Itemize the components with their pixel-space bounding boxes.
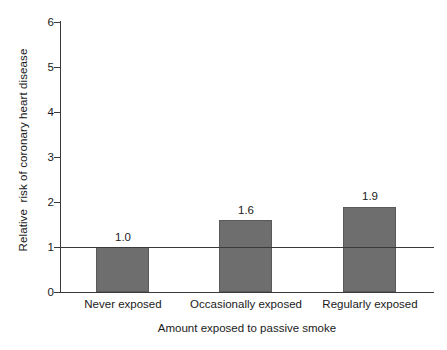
y-tick-label-3: 3 [40,152,54,163]
x-axis-title: Amount exposed to passive smoke [60,322,434,334]
x-category-label-never-exposed: Never exposed [62,298,184,311]
y-axis-tick-labels: 0 1 2 3 4 5 6 [38,0,54,350]
y-tick-label-5: 5 [40,62,54,73]
bar-occasionally-exposed[interactable] [219,220,272,292]
y-tick-label-0: 0 [40,287,54,298]
plot-area [60,21,434,292]
bar-regularly-exposed[interactable] [343,207,396,293]
y-tick-label-4: 4 [40,107,54,118]
y-tick-label-1: 1 [40,242,54,253]
bar-chart-figure: Relative risk of coronary heart disease … [0,0,447,350]
x-axis-line [60,292,434,293]
bar-value-label-never-exposed: 1.0 [96,231,150,243]
bar-never-exposed[interactable] [96,247,149,292]
bar-value-label-occasionally-exposed: 1.6 [219,204,273,216]
x-category-label-regularly-exposed: Regularly exposed [309,298,431,311]
bar-value-label-regularly-exposed: 1.9 [343,190,397,202]
y-tick-label-2: 2 [40,197,54,208]
x-category-label-occasionally-exposed: Occasionally exposed [185,298,307,311]
y-axis-title: Relative risk of coronary heart disease [14,0,32,300]
y-tick-label-6: 6 [40,17,54,28]
reference-line-at-one [55,247,434,248]
